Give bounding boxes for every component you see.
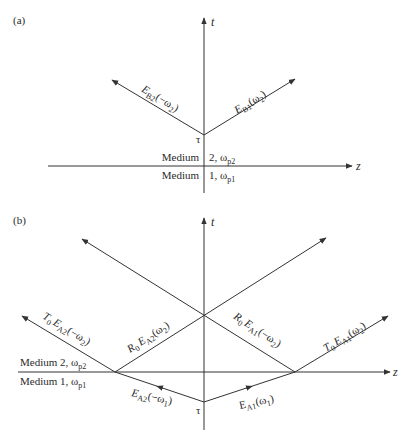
medium-2-label: Medium 2, ωp2 (20, 356, 86, 371)
t-axis-label: t (211, 215, 215, 229)
medium-2-word: Medium (162, 151, 200, 163)
svg-text:EA1(ω1): EA1(ω1) (238, 392, 276, 414)
panel-b: (b) t z τ T0EA2(−ω2) R0EA2(ω2) R0EA1(−ω2… (13, 214, 398, 430)
tau-label: τ (196, 133, 201, 145)
label-eb1: EB1(ω2) (231, 87, 270, 118)
tau-label: τ (196, 404, 201, 416)
spacetime-diagram: (a) t z τ EB2(−ω2) EB1(ω2) Medium 2, ωp2… (0, 0, 411, 443)
medium-2-value: 2, ωp2 (209, 151, 235, 166)
wave-ea1-incident (204, 372, 295, 402)
wave-r0-ea1-arrow (82, 239, 295, 372)
medium-1-label: Medium 1, ωp1 (20, 375, 86, 390)
label-t0-ea1: T0EA1(ω2) (321, 319, 369, 356)
wave-eb2-arrow (112, 80, 204, 135)
svg-text:EB1(ω2): EB1(ω2) (231, 87, 270, 118)
label-r0-ea1: R0EA1(−ω2) (229, 309, 284, 352)
medium-1-word: Medium (162, 169, 200, 181)
svg-text:T0EA1(ω2): T0EA1(ω2) (321, 319, 369, 356)
z-axis-label: z (355, 159, 361, 173)
svg-text:R0EA1(−ω2): R0EA1(−ω2) (229, 309, 284, 352)
label-t0-ea2: T0EA2(−ω2) (39, 309, 93, 350)
panel-a: (a) t z τ EB2(−ω2) EB1(ω2) Medium 2, ωp2… (13, 14, 361, 193)
medium-1-value: 1, ωp1 (209, 169, 235, 184)
z-axis-label: z (392, 365, 398, 379)
label-r0-ea2: R0EA2(ω2) (124, 318, 173, 357)
svg-text:R0EA2(ω2): R0EA2(ω2) (124, 318, 173, 357)
panel-b-label: (b) (13, 214, 26, 227)
label-ea1: EA1(ω1) (238, 392, 276, 414)
wave-r0-ea2-arrow (115, 238, 326, 372)
panel-a-label: (a) (13, 14, 26, 27)
t-axis-label: t (211, 15, 215, 29)
svg-text:T0EA2(−ω2): T0EA2(−ω2) (39, 309, 93, 350)
